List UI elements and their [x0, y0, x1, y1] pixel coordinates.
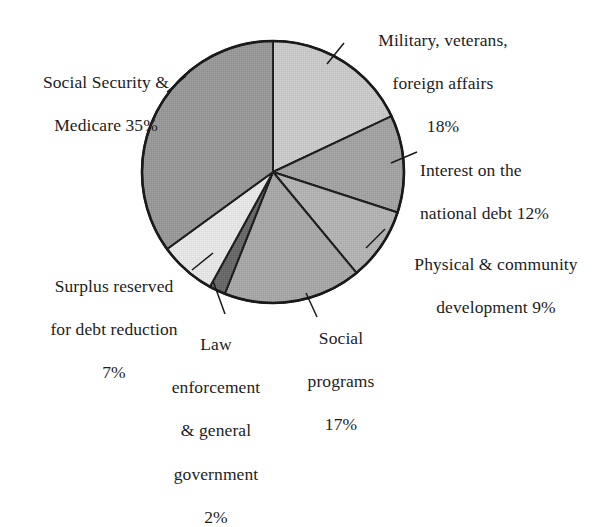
slice-label-interest: Interest on the national debt 12%: [420, 138, 598, 225]
slice-label-law-line4: government: [174, 464, 259, 484]
slice-label-social-programs-percent: 17%: [325, 414, 357, 434]
slice-label-military-line1: Military, veterans,: [378, 30, 508, 50]
slice-label-social-security: Social Security & Medicare 35%: [6, 50, 206, 137]
slice-label-social-programs-line2: programs: [308, 371, 375, 391]
slice-label-social-programs-line1: Social: [319, 328, 363, 348]
slice-label-physical-line2: development 9%: [436, 297, 556, 317]
slice-label-social-programs: Social programs 17%: [288, 306, 394, 436]
slice-label-surplus: Surplus reserved for debt reduction 7%: [20, 254, 208, 384]
slice-label-military-percent: 18%: [427, 116, 459, 136]
slice-label-surplus-line2: for debt reduction: [50, 319, 177, 339]
slice-label-surplus-line1: Surplus reserved: [55, 276, 174, 296]
slice-label-military-line2: foreign affairs: [393, 73, 494, 93]
slice-label-surplus-percent: 7%: [102, 362, 126, 382]
slice-label-law-line3: & general: [181, 420, 251, 440]
slice-label-military: Military, veterans, foreign affairs 18%: [338, 8, 548, 138]
slice-label-socsec-line1: Social Security &: [43, 72, 169, 92]
slice-label-law-percent: 2%: [204, 507, 228, 527]
slice-label-socsec-line2: Medicare 35%: [54, 115, 158, 135]
slice-label-interest-line1: Interest on the: [420, 160, 522, 180]
slice-label-interest-line2: national debt 12%: [420, 203, 549, 223]
slice-label-physical: Physical & community development 9%: [392, 232, 600, 319]
slice-label-physical-line1: Physical & community: [414, 254, 577, 274]
